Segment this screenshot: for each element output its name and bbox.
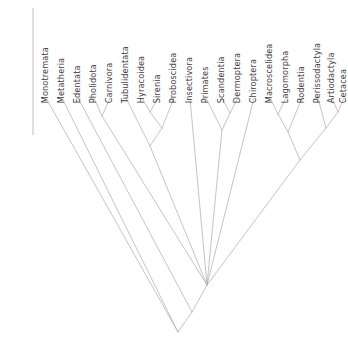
tip-label-dermoptera: Dermoptera (233, 53, 241, 103)
tip-label-pholidota: Pholidota (89, 64, 97, 103)
tip-label-artiodactyla: Artiodactyla (327, 52, 335, 103)
tip-label-scandentia: Scandentia (217, 56, 225, 103)
tip-label-carnivora: Carnivora (105, 63, 113, 104)
tip-labels-layer: MonotremataMetatheriaEdentataPholidotaCa… (0, 0, 348, 357)
tip-label-sirenia: Sirenia (153, 74, 161, 103)
tip-label-cetacea: Cetacea (339, 69, 347, 103)
tip-label-perissodactyla: Perissodactyla (313, 43, 321, 103)
tip-label-tubulidentata: Tubulidentata (121, 46, 129, 103)
phylogenetic-tree-figure: MonotremataMetatheriaEdentataPholidotaCa… (0, 0, 348, 357)
tip-label-proboscidea: Proboscidea (169, 53, 177, 104)
tip-label-edentata: Edentata (73, 65, 81, 103)
tip-label-chiroptera: Chiroptera (249, 59, 257, 103)
tip-label-hyracoidea: Hyracoidea (137, 56, 145, 103)
tip-label-primates: Primates (201, 66, 209, 103)
tip-label-insectivora: Insectivora (185, 57, 193, 103)
tip-label-lagomorpha: Lagomorpha (281, 51, 289, 104)
tip-label-rodentia: Rodentia (297, 66, 305, 103)
tip-label-monotremata: Monotremata (41, 47, 49, 103)
tip-label-macroscelidea: Macroscelidea (265, 44, 273, 104)
tip-label-metatheria: Metatheria (57, 58, 65, 103)
